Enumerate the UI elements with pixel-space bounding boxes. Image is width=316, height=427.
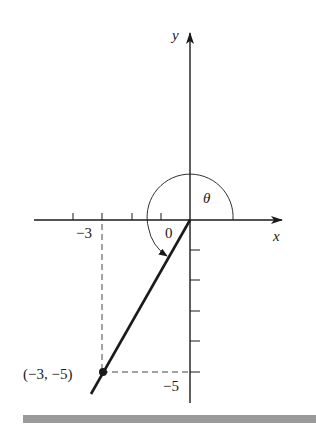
- x-axis-label: x: [272, 228, 280, 244]
- y-tick-label: −5: [163, 378, 179, 394]
- angle-label: θ: [203, 190, 211, 206]
- point-label: (−3, −5): [23, 366, 72, 383]
- x-axis-ticks: [73, 213, 161, 220]
- point-marker: [99, 368, 107, 376]
- angle-diagram: y x 0 −3 −5 θ (−3, −5): [0, 0, 316, 427]
- terminal-side-line: [91, 220, 190, 394]
- y-axis-label: y: [170, 27, 179, 43]
- y-axis-ticks: [190, 250, 200, 372]
- x-tick-label: −3: [76, 225, 92, 241]
- origin-label: 0: [165, 225, 173, 241]
- bottom-rule: [23, 415, 316, 423]
